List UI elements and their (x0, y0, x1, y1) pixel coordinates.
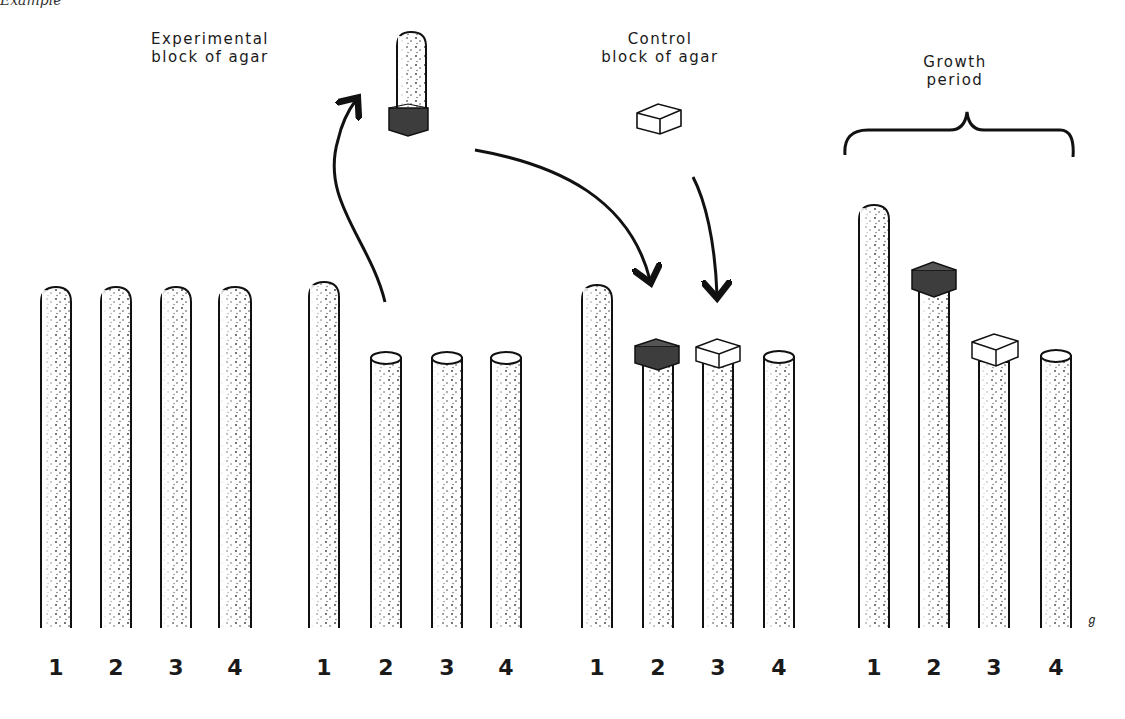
coleoptile-experimental-block-grown (912, 262, 956, 628)
coleoptile-with-control-block (696, 339, 740, 628)
group-4-col-2-number: 2 (914, 655, 954, 680)
group-2-col-3-number: 3 (427, 655, 467, 680)
coleoptile-intact-tip (101, 287, 131, 628)
group-1-col-3-number: 3 (156, 655, 196, 680)
coleoptile-with-experimental-block (635, 339, 679, 628)
control-agar-block (637, 104, 681, 134)
coleoptile-intact-tip (161, 287, 191, 628)
group-3-col-3-number: 3 (698, 655, 738, 680)
agar-block-experiment-diagram: Example Experimental block of agar Contr… (0, 0, 1125, 719)
group-3-coleoptiles (582, 285, 794, 628)
group-3-col-4-number: 4 (759, 655, 799, 680)
group-4-coleoptiles (859, 205, 1071, 628)
group-4-col-4-number: 4 (1036, 655, 1076, 680)
group-1-col-4-number: 4 (215, 655, 255, 680)
excised-tip-on-agar-block (389, 32, 428, 136)
coleoptile-intact-tip (41, 287, 71, 628)
artist-signature: ℊ (1086, 610, 1098, 627)
coleoptile-decapitated (1041, 350, 1071, 628)
diagram-drawing (0, 0, 1125, 719)
group-1-col-1-number: 1 (36, 655, 76, 680)
group-3-col-2-number: 2 (638, 655, 678, 680)
coleoptile-intact-tip (219, 287, 251, 628)
coleoptile-intact-tip (309, 282, 339, 628)
group-1-col-2-number: 2 (96, 655, 136, 680)
coleoptile-decapitated (432, 352, 462, 628)
arrow-up-to-tip (334, 100, 385, 302)
arrow-to-experimental-placement (475, 150, 650, 280)
group-2-col-2-number: 2 (366, 655, 406, 680)
group-1-coleoptiles (41, 287, 251, 628)
coleoptile-intact-tip-grown (859, 205, 889, 628)
arrow-to-control-placement (693, 177, 717, 295)
coleoptile-decapitated (371, 352, 401, 628)
group-2-col-4-number: 4 (486, 655, 526, 680)
coleoptile-decapitated (491, 352, 521, 628)
coleoptile-decapitated (764, 351, 794, 628)
group-4-col-3-number: 3 (974, 655, 1014, 680)
coleoptile-control-block (972, 334, 1018, 628)
group-3-col-1-number: 1 (577, 655, 617, 680)
group-2-col-1-number: 1 (304, 655, 344, 680)
growth-period-brace (845, 112, 1073, 157)
coleoptile-intact-tip (582, 285, 612, 628)
group-4-col-1-number: 1 (854, 655, 894, 680)
group-2-coleoptiles (309, 282, 521, 628)
